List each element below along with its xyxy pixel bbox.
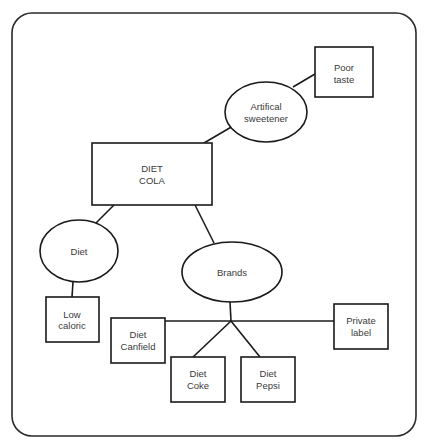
node-box	[92, 143, 212, 205]
node-diet-canfield: Diet Canfield	[111, 318, 165, 363]
node-ellipse	[225, 82, 307, 142]
node-label-line2: Pepsi	[256, 380, 280, 391]
node-label-line1: Diet	[71, 246, 88, 257]
node-label-line1: Brands	[217, 267, 247, 278]
node-label-line1: Private	[346, 315, 376, 326]
node-diet: Diet	[40, 220, 118, 282]
node-label-line2: label	[351, 327, 371, 338]
node-label-line2: Coke	[187, 380, 209, 391]
node-label-line1: Low	[63, 309, 81, 320]
node-brands: Brands	[182, 242, 282, 302]
node-label-line1: Diet	[130, 329, 147, 340]
node-label-line2: COLA	[139, 175, 166, 186]
node-diet-cola: DIET COLA	[92, 143, 212, 205]
node-low-caloric: Low caloric	[46, 297, 99, 342]
node-label-line1: Diet	[260, 368, 277, 379]
node-label-line2: caloric	[58, 320, 86, 331]
node-diet-coke: Diet Coke	[171, 357, 225, 402]
node-poor-taste: Poor taste	[315, 47, 373, 97]
node-label-line1: Artifical	[250, 101, 281, 112]
node-artificial-sweetener: Artifical sweetener	[225, 82, 307, 142]
edge-brands-junction	[230, 302, 231, 321]
edge-diet-lowcaloric	[72, 282, 73, 297]
node-label-line2: Canfield	[121, 341, 156, 352]
node-label-line1: Poor	[334, 62, 354, 73]
node-label-line1: DIET	[141, 163, 163, 174]
node-label-line2: taste	[334, 74, 355, 85]
node-label-line2: sweetener	[244, 113, 288, 124]
node-diet-pepsi: Diet Pepsi	[241, 357, 295, 402]
node-label-line1: Diet	[190, 368, 207, 379]
concept-map-canvas: Poor taste Artifical sweetener DIET COLA…	[0, 0, 427, 446]
node-private-label: Private label	[334, 304, 388, 349]
